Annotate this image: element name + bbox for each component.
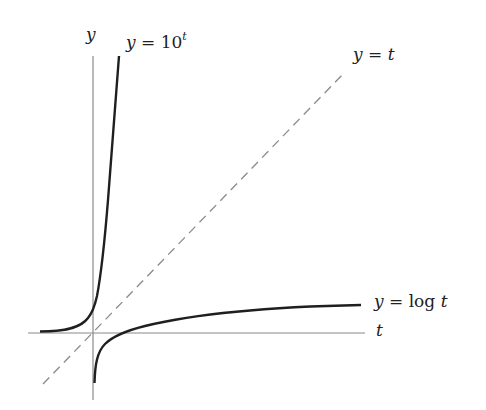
identity-line — [43, 73, 344, 384]
exponential-curve — [40, 56, 119, 332]
identity-label: y = t — [353, 44, 395, 64]
logarithm-label: y = log t — [374, 291, 447, 311]
t-axis-label: t — [376, 320, 383, 340]
exponential-label: y = 10t — [126, 32, 187, 52]
figure-canvas — [0, 0, 486, 410]
y-axis-label: y — [86, 24, 96, 44]
exponent: t — [182, 30, 186, 43]
logarithm-curve — [95, 305, 362, 383]
